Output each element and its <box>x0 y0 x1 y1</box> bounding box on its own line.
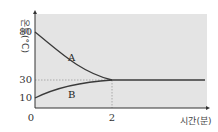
y-axis-title: 온도(°C) <box>20 19 30 53</box>
y-tick-10: 10 <box>19 92 32 103</box>
x-tick-2: 2 <box>109 112 115 123</box>
y-axis-arrow-icon <box>33 10 37 14</box>
curve-a-label: A <box>67 52 76 63</box>
x-axis-title: 시간(분) <box>180 116 211 126</box>
temperature-chart: 80 30 10 0 2 온도(°C) 시간(분) A B <box>0 0 218 132</box>
origin-label: 0 <box>28 112 34 123</box>
x-axis-arrow-icon <box>206 106 210 110</box>
curve-b-label: B <box>68 89 75 100</box>
y-tick-30: 30 <box>19 74 32 85</box>
plot-area <box>35 14 207 108</box>
